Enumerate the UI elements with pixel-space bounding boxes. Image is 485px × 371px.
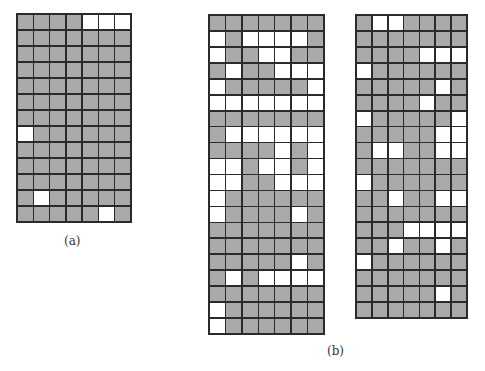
filled-cell <box>389 112 403 126</box>
empty-cell <box>275 64 290 78</box>
filled-cell <box>18 111 33 125</box>
empty-cell <box>259 32 274 46</box>
empty-cell <box>226 175 241 189</box>
filled-cell <box>226 32 241 46</box>
filled-cell <box>226 48 241 62</box>
empty-cell <box>389 16 403 30</box>
empty-cell <box>308 64 323 78</box>
filled-cell <box>420 127 434 141</box>
filled-cell <box>210 112 225 126</box>
filled-cell <box>226 16 241 30</box>
filled-cell <box>259 112 274 126</box>
empty-cell <box>275 96 290 110</box>
filled-cell <box>404 32 418 46</box>
empty-cell <box>452 48 466 62</box>
filled-cell <box>34 111 49 125</box>
filled-cell <box>115 63 130 77</box>
empty-cell <box>275 48 290 62</box>
filled-cell <box>226 287 241 301</box>
filled-cell <box>373 287 387 301</box>
filled-cell <box>99 127 114 141</box>
filled-cell <box>83 79 98 93</box>
empty-cell <box>308 159 323 173</box>
filled-cell <box>404 80 418 94</box>
filled-cell <box>243 112 258 126</box>
filled-cell <box>452 239 466 253</box>
filled-cell <box>436 303 450 317</box>
filled-cell <box>83 175 98 189</box>
filled-cell <box>18 159 33 173</box>
filled-cell <box>115 143 130 157</box>
filled-cell <box>226 143 241 157</box>
filled-cell <box>436 112 450 126</box>
filled-cell <box>420 159 434 173</box>
filled-cell <box>389 287 403 301</box>
filled-cell <box>67 111 82 125</box>
filled-cell <box>420 255 434 269</box>
filled-cell <box>259 191 274 205</box>
empty-cell <box>226 96 241 110</box>
filled-cell <box>275 16 290 30</box>
filled-cell <box>292 303 307 317</box>
filled-cell <box>67 31 82 45</box>
filled-cell <box>67 143 82 157</box>
empty-cell <box>389 239 403 253</box>
filled-cell <box>292 16 307 30</box>
filled-cell <box>357 32 371 46</box>
filled-cell <box>436 159 450 173</box>
empty-cell <box>83 15 98 29</box>
empty-cell <box>292 32 307 46</box>
filled-cell <box>404 159 418 173</box>
empty-cell <box>210 48 225 62</box>
filled-cell <box>357 303 371 317</box>
filled-cell <box>420 287 434 301</box>
filled-cell <box>404 175 418 189</box>
filled-cell <box>99 79 114 93</box>
filled-cell <box>420 64 434 78</box>
filled-cell <box>83 191 98 205</box>
empty-cell <box>275 32 290 46</box>
empty-cell <box>259 48 274 62</box>
filled-cell <box>373 239 387 253</box>
filled-cell <box>292 287 307 301</box>
filled-cell <box>308 239 323 253</box>
filled-cell <box>452 287 466 301</box>
filled-cell <box>243 143 258 157</box>
filled-cell <box>99 159 114 173</box>
empty-cell <box>420 48 434 62</box>
filled-cell <box>115 127 130 141</box>
empty-cell <box>308 175 323 189</box>
empty-cell <box>292 127 307 141</box>
empty-cell <box>292 64 307 78</box>
filled-cell <box>389 96 403 110</box>
filled-cell <box>357 127 371 141</box>
empty-cell <box>404 223 418 237</box>
filled-cell <box>357 223 371 237</box>
filled-cell <box>226 303 241 317</box>
filled-cell <box>99 175 114 189</box>
filled-cell <box>404 48 418 62</box>
filled-cell <box>34 15 49 29</box>
filled-cell <box>50 47 65 61</box>
filled-cell <box>436 271 450 285</box>
filled-cell <box>243 239 258 253</box>
filled-cell <box>18 143 33 157</box>
filled-cell <box>452 255 466 269</box>
filled-cell <box>308 287 323 301</box>
filled-cell <box>389 223 403 237</box>
filled-cell <box>373 303 387 317</box>
empty-cell <box>308 96 323 110</box>
filled-cell <box>308 303 323 317</box>
filled-cell <box>389 127 403 141</box>
filled-cell <box>389 32 403 46</box>
filled-cell <box>404 143 418 157</box>
empty-cell <box>34 191 49 205</box>
filled-cell <box>99 95 114 109</box>
filled-cell <box>50 159 65 173</box>
empty-cell <box>420 223 434 237</box>
filled-cell <box>389 175 403 189</box>
empty-cell <box>357 175 371 189</box>
empty-cell <box>275 127 290 141</box>
empty-cell <box>243 32 258 46</box>
filled-cell <box>308 223 323 237</box>
